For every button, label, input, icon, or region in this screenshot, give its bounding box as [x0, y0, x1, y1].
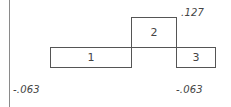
box-1-label: 1 — [88, 51, 95, 64]
value-bottom-left: -.063 — [13, 84, 40, 95]
left-axis-line — [9, 0, 10, 107]
box-3: 3 — [176, 47, 216, 68]
value-top-right: .127 — [181, 7, 204, 18]
box-3-label: 3 — [193, 51, 200, 64]
value-bottom-right: -.063 — [176, 84, 203, 95]
box-2-label: 2 — [151, 26, 158, 39]
box-2: 2 — [131, 17, 177, 48]
box-1: 1 — [50, 47, 132, 68]
